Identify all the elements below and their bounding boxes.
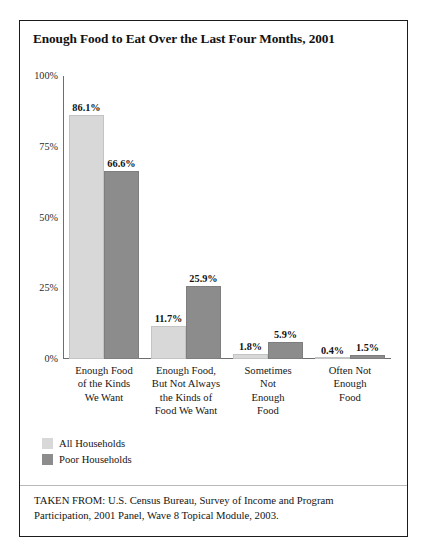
category-label-line: Not — [228, 377, 308, 390]
category-label: Enough Foodof the KindsWe Want — [63, 364, 145, 417]
bar-value-label: 25.9% — [189, 273, 217, 284]
bar-chart: 100%75%50%25%0% 86.1%66.6%11.7%25.9%1.8%… — [20, 57, 409, 427]
category-label-line: Enough Food, — [146, 364, 226, 377]
figure-frame: Enough Food to Eat Over the Last Four Mo… — [19, 20, 408, 537]
category-label-line: of the Kinds — [64, 377, 144, 390]
bar-slot: 66.6% — [104, 76, 139, 359]
bar[interactable] — [104, 171, 139, 359]
category-label-line: But Not Always — [146, 377, 226, 390]
category-label-line: Often Not — [310, 364, 390, 377]
bar-pair: 0.4%1.5% — [309, 76, 391, 359]
bar-value-label: 11.7% — [155, 313, 183, 324]
bar-group: 11.7%25.9% — [145, 76, 227, 359]
category-label-line: Enough — [310, 377, 390, 390]
y-axis-tick-label: 75% — [39, 141, 58, 152]
bar[interactable] — [315, 357, 350, 359]
bar[interactable] — [233, 354, 268, 359]
y-axis-tick-label: 25% — [39, 283, 58, 294]
category-label-line: the Kinds of — [146, 391, 226, 404]
chart-legend: All HouseholdsPoor Households — [42, 436, 292, 468]
bar-slot: 1.8% — [233, 76, 268, 359]
category-label: SometimesNotEnoughFood — [227, 364, 309, 417]
y-axis-tick-label: 50% — [39, 212, 58, 223]
category-label-line: Sometimes — [228, 364, 308, 377]
bar[interactable] — [350, 355, 385, 359]
legend-item[interactable]: All Households — [42, 436, 292, 451]
bar[interactable] — [69, 115, 104, 359]
bar-value-label: 66.6% — [107, 158, 135, 169]
bar-pair: 1.8%5.9% — [227, 76, 309, 359]
bar-value-label: 1.5% — [356, 342, 379, 353]
category-label: Enough Food,But Not Alwaysthe Kinds ofFo… — [145, 364, 227, 417]
legend-swatch — [42, 454, 53, 465]
bar-group: 1.8%5.9% — [227, 76, 309, 359]
bar-value-label: 0.4% — [321, 345, 344, 356]
bar-pair: 86.1%66.6% — [63, 76, 145, 359]
bar-value-label: 1.8% — [239, 341, 262, 352]
bar-slot: 0.4% — [315, 76, 350, 359]
y-axis-tick-label: 0% — [44, 353, 58, 364]
y-axis-tick-label: 100% — [34, 70, 58, 81]
bar-value-label: 5.9% — [274, 329, 297, 340]
legend-label: All Households — [59, 438, 125, 449]
bar-group: 0.4%1.5% — [309, 76, 391, 359]
bar[interactable] — [268, 342, 303, 359]
bar-group: 86.1%66.6% — [63, 76, 145, 359]
category-label-line: Food — [310, 391, 390, 404]
bar-value-label: 86.1% — [72, 102, 100, 113]
category-label: Often NotEnoughFood — [309, 364, 391, 417]
category-label-line: Enough Food — [64, 364, 144, 377]
bar[interactable] — [151, 326, 186, 359]
bar[interactable] — [186, 286, 221, 359]
bar-slot: 11.7% — [151, 76, 186, 359]
figure-page: Enough Food to Eat Over the Last Four Mo… — [0, 0, 427, 553]
source-note: TAKEN FROM: U.S. Census Bureau, Survey o… — [34, 493, 392, 522]
plot-area: 100%75%50%25%0% 86.1%66.6%11.7%25.9%1.8%… — [63, 76, 391, 359]
category-label-line: Food — [228, 404, 308, 417]
page-title: Enough Food to Eat Over the Last Four Mo… — [33, 31, 395, 47]
bar-slot: 5.9% — [268, 76, 303, 359]
bar-slot: 86.1% — [69, 76, 104, 359]
legend-item[interactable]: Poor Households — [42, 452, 292, 467]
bar-groups: 86.1%66.6%11.7%25.9%1.8%5.9%0.4%1.5% — [63, 76, 391, 359]
category-label-line: Enough — [228, 391, 308, 404]
legend-label: Poor Households — [59, 454, 132, 465]
x-axis-category-labels: Enough Foodof the KindsWe WantEnough Foo… — [63, 364, 391, 417]
note-divider — [20, 485, 407, 486]
bar-slot: 1.5% — [350, 76, 385, 359]
bar-slot: 25.9% — [186, 76, 221, 359]
bar-pair: 11.7%25.9% — [145, 76, 227, 359]
category-label-line: Food We Want — [146, 404, 226, 417]
legend-swatch — [42, 438, 53, 449]
category-label-line: We Want — [64, 391, 144, 404]
